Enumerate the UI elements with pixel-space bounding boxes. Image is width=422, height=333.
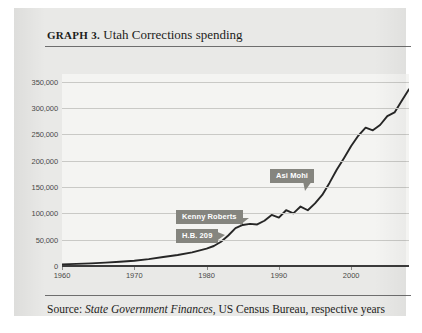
callout-kenny-roberts: Kenny Roberts [176,210,243,224]
gridline [62,134,409,135]
x-axis-tick-mark [279,267,280,270]
y-axis-tick-label: 0 [12,262,58,271]
source-rule [45,295,411,296]
gridline [62,108,409,109]
line-series [62,74,409,266]
x-axis-tick-mark [134,267,135,270]
y-axis-tick-label: 200,000 [12,157,58,166]
x-axis-line [62,265,409,267]
callout-asi-mohi: Asi Mohi [270,169,314,183]
callout-asi-mohi-label: Asi Mohi [276,171,308,180]
scanned-page: GRAPH 3. Utah Corrections spending 050,0… [14,8,406,316]
page-canvas: GRAPH 3. Utah Corrections spending 050,0… [0,0,422,333]
x-axis-tick-label: 2000 [331,271,371,280]
y-axis-tick-label: 100,000 [12,209,58,218]
callout-kenny-roberts-label: Kenny Roberts [182,212,237,221]
callout-hb-209: H.B. 209 [176,229,218,243]
x-axis-tick-mark [207,267,208,270]
source-prefix: Source: [47,303,82,315]
callout-hb-209-label: H.B. 209 [182,231,212,240]
y-axis-tick-label: 50,000 [12,236,58,245]
callout-pointer-icon [215,231,225,242]
x-axis-tick-label: 1960 [42,271,82,280]
x-axis-tick-label: 1980 [187,271,227,280]
source-suffix: , US Census Bureau, respective years [213,303,385,315]
x-axis-tick-mark [351,267,352,270]
callout-pointer-icon [303,181,312,191]
chart-plot-area: 050,000100,000150,000200,000250,000300,0… [62,74,409,266]
title-rule [45,46,411,47]
y-axis-tick-label: 250,000 [12,130,58,139]
gridline [62,82,409,83]
gridline [62,187,409,188]
gridline [62,161,409,162]
y-axis-tick-label: 300,000 [12,104,58,113]
graph-title-text: Utah Corrections spending [103,27,242,42]
x-axis-tick-mark [62,267,63,270]
y-axis-tick-label: 150,000 [12,183,58,192]
source-note: Source: State Government Finances, US Ce… [47,303,385,315]
y-axis-tick-label: 350,000 [12,78,58,87]
graph-number: GRAPH 3. [47,29,100,41]
gridline [62,240,409,241]
page-title: GRAPH 3. Utah Corrections spending [47,27,243,43]
callout-pointer-icon [240,218,249,225]
x-axis-tick-label: 1990 [259,271,299,280]
source-publication: State Government Finances [85,303,213,315]
x-axis-tick-label: 1970 [114,271,154,280]
